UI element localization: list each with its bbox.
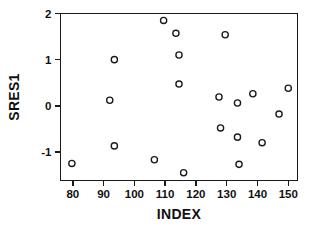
data-point [276,111,282,117]
data-point [151,157,157,163]
data-point [259,140,265,146]
y-axis-ticks: 210-1 [41,8,60,158]
data-point [69,160,75,166]
x-tick-label: 140 [248,188,267,200]
y-tick-label: 0 [45,100,51,112]
scatter-chart: 8090100110120130140150 210-1 INDEX SRES1 [0,0,312,229]
x-tick-label: 130 [217,188,236,200]
y-axis-title: SRES1 [6,73,22,120]
data-point [176,81,182,87]
data-point [236,161,242,167]
data-point [173,30,179,36]
data-point [111,143,117,149]
data-point [111,57,117,63]
data-point [176,52,182,58]
data-points [69,17,292,175]
x-axis-ticks: 8090100110120130140150 [66,181,297,201]
data-point [285,85,291,91]
x-tick-label: 150 [279,188,298,200]
x-tick-label: 100 [125,188,144,200]
data-point [107,97,113,103]
data-point [234,134,240,140]
data-point [181,170,187,176]
scatter-plot-canvas: 8090100110120130140150 210-1 INDEX SRES1 [0,0,312,229]
x-tick-label: 80 [66,188,79,200]
data-point [234,100,240,106]
x-axis-title: INDEX [157,206,202,222]
data-point [250,91,256,97]
plot-frame [61,14,298,181]
data-point [222,32,228,38]
x-tick-label: 110 [156,188,175,200]
data-point [217,125,223,131]
y-tick-label: 2 [45,8,51,20]
x-tick-label: 120 [186,188,205,200]
y-tick-label: -1 [41,146,52,158]
y-tick-label: 1 [45,54,52,66]
data-point [216,94,222,100]
data-point [161,17,167,23]
x-tick-label: 90 [97,188,110,200]
